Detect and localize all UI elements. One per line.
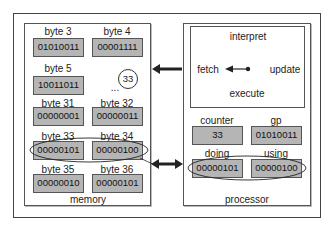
- double-arrow-icon: [151, 159, 183, 169]
- memory-selection-oval: [30, 138, 148, 162]
- cycle-arrow-icon: [225, 66, 250, 73]
- oval-connector: [140, 158, 153, 164]
- processor-selection-oval: [188, 156, 306, 180]
- fetch-arrow-icon: [152, 64, 182, 74]
- connectors: [0, 0, 334, 229]
